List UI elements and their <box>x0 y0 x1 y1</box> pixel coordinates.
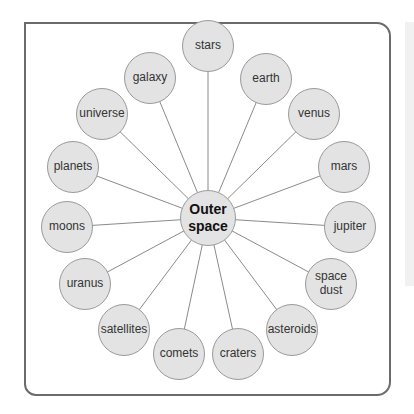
node-label: space dust <box>313 270 349 298</box>
node-earth: earth <box>240 53 292 105</box>
node-label: jupiter <box>334 220 367 234</box>
node-jupiter: jupiter <box>324 201 376 253</box>
node-label: uranus <box>67 277 104 291</box>
node-label: universe <box>79 107 124 121</box>
node-moons: moons <box>41 201 93 253</box>
center-label-line2: space <box>188 218 228 235</box>
node-comets: comets <box>153 328 205 380</box>
node-label: craters <box>220 347 257 361</box>
node-satellites: satellites <box>98 304 150 356</box>
node-mars: mars <box>318 141 370 193</box>
node-craters: craters <box>212 328 264 380</box>
node-label: stars <box>195 39 221 53</box>
node-stars: stars <box>182 20 234 72</box>
node-label: moons <box>49 220 85 234</box>
node-label: mars <box>331 160 358 174</box>
node-universe: universe <box>76 88 128 140</box>
node-uranus: uranus <box>59 258 111 310</box>
node-space-dust: space dust <box>305 258 357 310</box>
node-label: asteroids <box>268 323 317 337</box>
center-label-line1: Outer <box>188 201 228 218</box>
node-label: earth <box>252 72 279 86</box>
node-galaxy: galaxy <box>124 52 176 104</box>
center-node: Outer space <box>180 190 236 246</box>
node-label: planets <box>54 160 93 174</box>
node-label: galaxy <box>133 71 168 85</box>
node-label: venus <box>298 107 330 121</box>
node-label: satellites <box>101 323 148 337</box>
node-planets: planets <box>47 141 99 193</box>
node-venus: venus <box>288 88 340 140</box>
node-asteroids: asteroids <box>266 304 318 356</box>
node-label: comets <box>160 347 199 361</box>
